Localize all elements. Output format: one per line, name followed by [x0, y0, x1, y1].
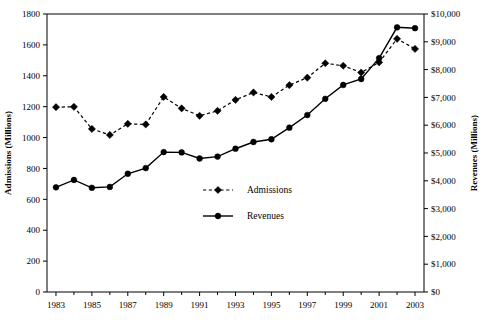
y-axis-left-tick-label: 1200: [22, 102, 41, 112]
x-axis-tick-label: 1993: [227, 300, 246, 310]
data-point-revenues: [358, 76, 364, 82]
x-axis-tick-label: 1987: [119, 300, 138, 310]
y-axis-left-tick-label: 0: [36, 287, 41, 297]
y-axis-left-tick-label: 400: [27, 225, 41, 235]
legend-marker-revenues: [215, 213, 221, 219]
data-point-revenues: [376, 55, 382, 61]
data-point-revenues: [304, 112, 310, 118]
x-axis-tick-label: 1995: [262, 300, 281, 310]
data-point-admissions: [232, 96, 239, 103]
y-axis-right-tick-label: $1,000: [431, 259, 456, 269]
y-axis-left-tick-label: 200: [27, 256, 41, 266]
chart-container: 020040060080010001200140016001800 $0$1,0…: [0, 0, 486, 323]
y-axis-left-tick-label: 800: [27, 164, 41, 174]
y-axis-right-tick-label: $9,000: [431, 37, 456, 47]
y-axis-right-tick-label: $5,000: [431, 148, 456, 158]
y-axis-right-tick-label: $6,000: [431, 120, 456, 130]
data-point-revenues: [125, 171, 131, 177]
data-point-admissions: [106, 131, 113, 138]
y-axis-right-tick-label: $0: [431, 287, 441, 297]
data-point-revenues: [322, 96, 328, 102]
x-axis-ticks: 1983198519871989199119931995199719992001…: [47, 292, 425, 310]
series-line-admissions: [56, 39, 415, 135]
y-axis-right-ticks: $0$1,000$2,000$3,000$4,000$5,000$6,000$7…: [424, 9, 461, 297]
data-point-admissions: [268, 93, 275, 100]
data-point-revenues: [215, 154, 221, 160]
data-point-revenues: [71, 177, 77, 183]
data-point-admissions: [214, 107, 221, 114]
legend-label-revenues: Revenues: [247, 211, 284, 221]
data-point-admissions: [340, 62, 347, 69]
data-point-admissions: [70, 103, 77, 110]
y-axis-right-tick-label: $4,000: [431, 176, 456, 186]
data-point-admissions: [304, 74, 311, 81]
data-point-revenues: [197, 156, 203, 162]
data-point-revenues: [179, 149, 185, 155]
data-point-revenues: [143, 165, 149, 171]
y-axis-left-tick-label: 1800: [22, 9, 41, 19]
y-axis-left-tick-label: 1400: [22, 71, 41, 81]
legend-label-admissions: Admissions: [247, 185, 292, 195]
legend-marker-admissions: [214, 186, 221, 193]
data-point-admissions: [196, 112, 203, 119]
x-axis-tick-label: 1983: [47, 300, 66, 310]
y-axis-left-title: Admissions (Millions): [3, 111, 13, 195]
x-axis-tick-label: 1997: [298, 300, 317, 310]
data-point-admissions: [178, 105, 185, 112]
data-point-revenues: [286, 125, 292, 131]
y-axis-left-tick-label: 1000: [22, 133, 41, 143]
x-axis-tick-label: 1991: [191, 300, 209, 310]
data-point-admissions: [142, 121, 149, 128]
data-point-admissions: [250, 89, 257, 96]
y-axis-right-tick-label: $2,000: [431, 232, 456, 242]
y-axis-right-tick-label: $7,000: [431, 93, 456, 103]
x-axis-tick-label: 1989: [155, 300, 174, 310]
y-axis-right-tick-label: $8,000: [431, 65, 456, 75]
y-axis-right-title: Revenues (Millions): [469, 115, 479, 191]
chart-legend: AdmissionsRevenues: [203, 185, 292, 221]
data-point-revenues: [89, 185, 95, 191]
data-point-revenues: [269, 136, 275, 142]
data-point-admissions: [52, 104, 59, 111]
x-axis-tick-label: 1985: [83, 300, 102, 310]
y-axis-left-tick-label: 600: [27, 195, 41, 205]
series-layer: [52, 24, 418, 190]
y-axis-left-tick-label: 1600: [22, 40, 41, 50]
data-point-revenues: [161, 149, 167, 155]
data-point-revenues: [340, 82, 346, 88]
series-line-revenues: [56, 27, 415, 187]
y-axis-left-ticks: 020040060080010001200140016001800: [22, 9, 47, 297]
data-point-revenues: [53, 184, 59, 190]
data-point-revenues: [394, 24, 400, 30]
data-point-revenues: [107, 184, 113, 190]
y-axis-right-tick-label: $10,000: [431, 9, 461, 19]
plot-frame: [47, 14, 424, 292]
data-point-revenues: [412, 25, 418, 31]
data-point-revenues: [233, 146, 239, 152]
line-chart: 020040060080010001200140016001800 $0$1,0…: [0, 0, 486, 323]
x-axis-tick-label: 2001: [370, 300, 388, 310]
data-point-admissions: [286, 82, 293, 89]
x-axis-tick-label: 2003: [406, 300, 425, 310]
x-axis-tick-label: 1999: [334, 300, 353, 310]
data-point-admissions: [124, 120, 131, 127]
data-point-admissions: [411, 45, 418, 52]
data-point-admissions: [160, 93, 167, 100]
data-point-admissions: [393, 35, 400, 42]
y-axis-right-tick-label: $3,000: [431, 204, 456, 214]
data-point-revenues: [251, 139, 257, 145]
